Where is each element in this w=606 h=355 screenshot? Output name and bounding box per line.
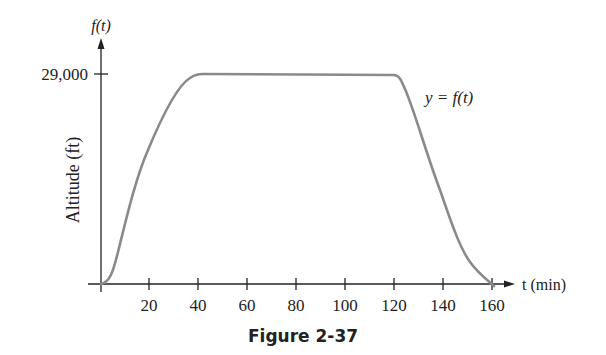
svg-text:80: 80 (288, 296, 305, 315)
svg-text:120: 120 (381, 296, 407, 315)
x-axis-arrow-icon (504, 281, 515, 288)
y-function-label: f(t) (91, 17, 111, 35)
svg-text:140: 140 (430, 296, 456, 315)
y-tick-label: 29,000 (41, 65, 88, 84)
svg-text:160: 160 (479, 296, 505, 315)
figure-caption: Figure 2-37 (0, 326, 606, 346)
curve-label: y = f(t) (423, 88, 474, 107)
svg-text:100: 100 (332, 296, 358, 315)
x-tick-labels: 20 40 60 80 100 120 140 160 (141, 296, 505, 315)
y-axis-arrow-icon (98, 38, 105, 49)
svg-text:40: 40 (190, 296, 207, 315)
y-axis-label: Altitude (ft) (63, 137, 84, 223)
svg-text:60: 60 (239, 296, 256, 315)
x-axis-label: t (min) (522, 276, 566, 294)
svg-text:20: 20 (141, 296, 158, 315)
chart: f(t) 29,000 Altitude (ft) y = f(t) t (mi… (0, 0, 606, 355)
